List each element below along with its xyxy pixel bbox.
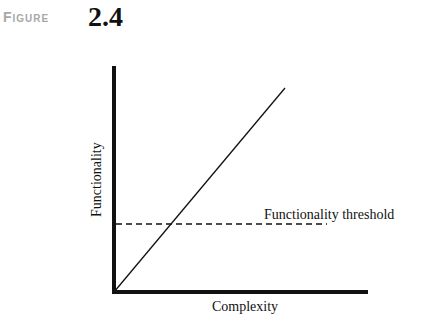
threshold-label: Functionality threshold: [264, 207, 394, 222]
chart: Functionality threshold Complexity Funct…: [0, 0, 421, 323]
complexity-line: [114, 88, 285, 292]
x-axis-label: Complexity: [212, 299, 278, 314]
y-axis-label: Functionality: [89, 142, 104, 217]
